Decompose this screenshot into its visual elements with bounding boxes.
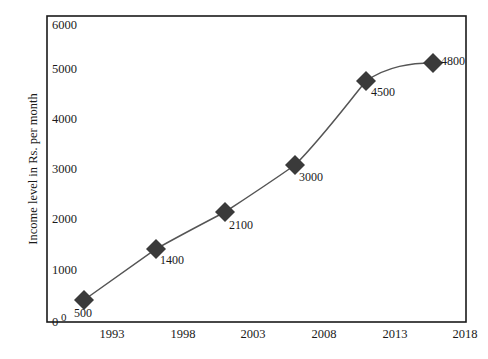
x-tick-label-1998: 1998 (161, 327, 205, 342)
y-tick-label-2000: 2000 (52, 212, 77, 227)
x-tick-label-1993: 1993 (90, 327, 134, 342)
data-point-label-3000: 3000 (299, 170, 323, 185)
y-tick-label-3000: 3000 (52, 162, 77, 177)
x-tick-label-2008: 2008 (302, 327, 346, 342)
data-point-label-2100: 2100 (229, 218, 253, 233)
y-tick-label-4000: 4000 (52, 112, 77, 127)
data-point-label-1400: 1400 (160, 253, 184, 268)
y-tick-label-6000: 6000 (52, 18, 77, 33)
data-point-label-500: 500 (74, 306, 92, 321)
data-point-label-4500: 4500 (371, 85, 395, 100)
x-tick-label-2018: 2018 (443, 327, 487, 342)
y-tick-label-1000: 1000 (52, 263, 77, 278)
plot-frame (47, 16, 466, 322)
x-tick-label-2013: 2013 (373, 327, 417, 342)
data-point-label-4800: 4800 (441, 54, 465, 69)
line-chart: Income level in Rs. per month 0 1000 200… (0, 0, 488, 359)
origin-zero-label: 0 (61, 311, 67, 323)
x-tick-label-2003: 2003 (231, 327, 275, 342)
y-tick-label-0: 0 (52, 315, 58, 330)
y-tick-label-5000: 5000 (52, 62, 77, 77)
